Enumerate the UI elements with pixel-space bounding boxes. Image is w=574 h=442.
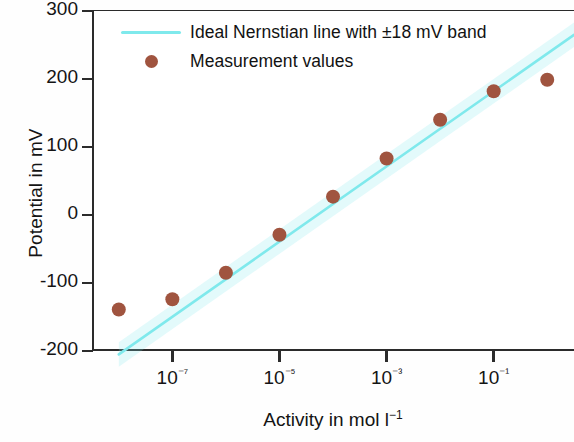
- x-tick-mark: [385, 351, 387, 362]
- y-tick-label: -200: [0, 338, 78, 360]
- legend-item-ideal-line: Ideal Nernstian line with ±18 mV band: [112, 18, 486, 47]
- x-tick-label: 10⁻³: [357, 366, 417, 389]
- x-tick-label: 10⁻⁷: [142, 366, 202, 389]
- y-tick-label: -100: [0, 270, 78, 292]
- y-tick-label: 0: [0, 202, 78, 224]
- y-tick-label: 300: [0, 0, 78, 20]
- x-tick-label: 10⁻⁵: [249, 366, 309, 389]
- x-tick-mark: [171, 351, 173, 362]
- legend-dot-swatch: [112, 55, 190, 68]
- x-tick-mark: [278, 351, 280, 362]
- legend-item-measurements: Measurement values: [112, 47, 486, 76]
- y-tick-label: 200: [0, 66, 78, 88]
- legend-label-measurements: Measurement values: [190, 51, 353, 72]
- x-axis-title-text: Activity in mol l: [263, 409, 389, 430]
- x-tick-label: 10⁻¹: [464, 366, 524, 389]
- legend-label-ideal-line: Ideal Nernstian line with ±18 mV band: [190, 22, 486, 43]
- nernstian-response-chart: Potential in mV 3002001000-100-200 10⁻⁷1…: [0, 0, 574, 442]
- legend-line-swatch: [112, 31, 190, 34]
- x-axis-title: Activity in mol l−1: [92, 408, 574, 431]
- chart-legend: Ideal Nernstian line with ±18 mV band Me…: [112, 18, 486, 76]
- y-tick-label: 100: [0, 134, 78, 156]
- x-tick-mark: [492, 351, 494, 362]
- x-axis-title-exponent: −1: [389, 408, 403, 422]
